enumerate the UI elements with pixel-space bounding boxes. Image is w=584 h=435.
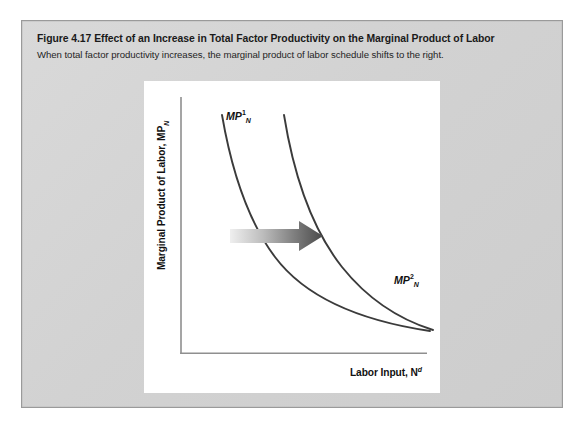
curve-mp2	[284, 115, 433, 330]
page-root: Figure 4.17 Effect of an Increase in Tot…	[0, 0, 584, 435]
curve-label-mp1-sup: 1	[242, 109, 246, 116]
plot-area: Marginal Product of Labor, MPN Labor Inp…	[144, 81, 440, 393]
x-axis-label-sup: d	[418, 366, 422, 373]
figure-title-text: Effect of an Increase in Total Factor Pr…	[94, 33, 494, 44]
curve-label-mp2-sup: 2	[410, 273, 414, 280]
shift-arrow-icon	[230, 221, 323, 251]
curve-label-mp1: MP1N	[226, 109, 251, 124]
curve-label-mp1-sub: N	[246, 117, 251, 124]
chart-svg	[144, 81, 440, 393]
figure-title-line: Figure 4.17 Effect of an Increase in Tot…	[37, 31, 547, 46]
y-axis-label-text: Marginal Product of Labor, MP	[156, 126, 167, 270]
curve-label-mp2-sub: N	[414, 281, 419, 288]
curve-label-mp1-base: MP	[226, 110, 242, 122]
y-axis-label: Marginal Product of Labor, MPN	[156, 81, 169, 311]
figure-caption: Figure 4.17 Effect of an Increase in Tot…	[37, 31, 547, 62]
curve-label-mp2-base: MP	[394, 274, 410, 286]
figure-subtitle: When total factor productivity increases…	[37, 48, 547, 62]
x-axis-label: Labor Input, Nd	[350, 366, 422, 378]
curve-mp1	[222, 115, 430, 331]
y-axis-label-sub: N	[163, 121, 170, 126]
figure-number: Figure 4.17	[37, 33, 91, 44]
curve-label-mp2: MP2N	[394, 273, 419, 288]
x-axis-label-text: Labor Input, N	[350, 367, 418, 378]
figure-panel: Figure 4.17 Effect of an Increase in Tot…	[21, 20, 563, 408]
